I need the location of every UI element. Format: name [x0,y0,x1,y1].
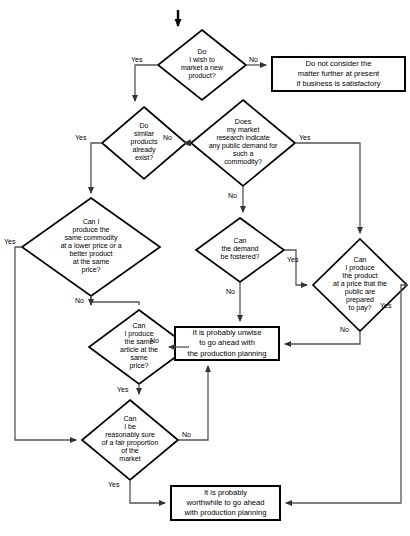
node-d5-shape [196,218,284,282]
edge-d8-no [178,366,208,440]
node-b3-shape [171,486,280,520]
node-d1-shape [158,30,246,100]
edge-d6-no [285,331,360,344]
edge-d2-yes [91,143,102,193]
node-d6-shape [313,239,407,331]
flowchart-canvas [0,0,410,536]
node-b2-shape [175,327,279,360]
node-d4-shape [22,198,160,296]
node-b1-shape [272,57,405,91]
node-d2-shape [102,107,186,179]
edge-d1-yes [135,65,158,101]
edge-d5-yes [284,250,307,285]
edge-d8-yes [130,480,165,503]
edge-d3-yes [295,143,360,233]
node-d8-shape [82,400,178,480]
node-d3-shape [191,100,295,186]
flowchart-diagram: Do I wish to market a new product? Do no… [0,0,410,536]
edge-d4-no [91,296,139,305]
